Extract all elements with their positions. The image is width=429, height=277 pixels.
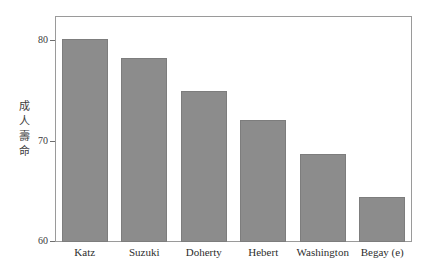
y-axis-tick-label: 80	[38, 34, 48, 45]
bar	[181, 91, 227, 242]
y-axis-tick-label: 70	[38, 135, 48, 146]
y-axis-tick-mark	[50, 241, 55, 242]
x-axis-tick-label: Hebert	[234, 246, 294, 258]
bar	[121, 58, 167, 242]
y-axis-tick-mark	[50, 40, 55, 41]
bar	[62, 39, 108, 242]
bar	[240, 120, 286, 242]
x-axis-tick-label: Katz	[55, 246, 115, 258]
x-axis-tick-label: Doherty	[174, 246, 234, 258]
y-axis-title-char-4: 命	[17, 144, 32, 159]
y-axis-title: 成 人 壽 命	[17, 99, 32, 159]
y-axis-tick-mark	[50, 141, 55, 142]
bar	[359, 197, 405, 242]
bar	[300, 154, 346, 242]
chart-figure: 成 人 壽 命 607080 KatzSuzukiDohertyHebertWa…	[0, 0, 429, 277]
x-axis-tick-label: Suzuki	[115, 246, 175, 258]
y-axis-title-char-3: 壽	[17, 129, 32, 144]
x-axis-tick-label: Washington	[293, 246, 353, 258]
x-axis-tick-label: Begay (e)	[353, 246, 413, 258]
y-axis-tick-label: 60	[38, 235, 48, 246]
y-axis-title-char-1: 成	[17, 99, 32, 114]
y-axis-title-char-2: 人	[17, 114, 32, 129]
